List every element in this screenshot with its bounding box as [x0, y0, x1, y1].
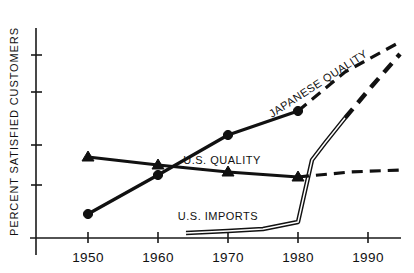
x-axis-tick-labels: 1950 1960 1970 1980 1990 [72, 250, 384, 265]
line-chart: 1950 1960 1970 1980 1990 PERCENT SATISFI… [0, 0, 414, 273]
y-axis-title: PERCENT SATISFIED CUSTOMERS [8, 27, 20, 236]
series-us-imports [186, 54, 400, 233]
x-tick-label-1960: 1960 [142, 250, 174, 265]
data-point-japan-1950 [83, 209, 92, 218]
x-tick-label-1970: 1970 [212, 250, 244, 265]
x-tick-label-1990: 1990 [352, 250, 384, 265]
chart-container: 1950 1960 1970 1980 1990 PERCENT SATISFI… [0, 0, 414, 273]
series-label-japanese-quality: JAPANESE QUALITY [267, 47, 370, 120]
us-quality-projection [298, 170, 400, 177]
series-japanese-quality [83, 42, 400, 219]
series-label-us-imports: U.S. IMPORTS [178, 210, 258, 222]
x-tick-label-1950: 1950 [72, 250, 104, 265]
series-label-us-quality: U.S. QUALITY [183, 154, 261, 166]
data-point-japan-1960 [153, 170, 162, 179]
data-point-japan-1980 [293, 106, 302, 115]
japanese-quality-projection [298, 42, 400, 111]
data-point-japan-1970 [223, 130, 232, 139]
x-tick-label-1980: 1980 [282, 250, 314, 265]
